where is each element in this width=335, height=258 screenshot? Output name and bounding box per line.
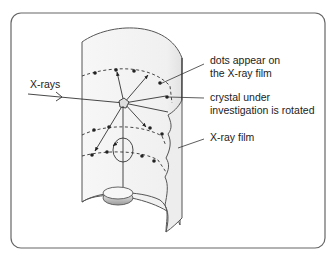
dot [92, 128, 96, 132]
dot [152, 159, 156, 163]
label-x-ray-film: X-ray film [210, 131, 255, 143]
label-dots-line2: the X-ray film [210, 67, 272, 79]
mount-disc-top [103, 187, 133, 199]
dot [140, 154, 144, 158]
label-crystal-line2: investigation is rotated [210, 104, 315, 116]
dot [105, 150, 109, 154]
label-dots-line1: dots appear on [210, 54, 280, 66]
label-crystal-line1: crystal under [210, 91, 271, 103]
dot [114, 68, 118, 72]
dot [160, 132, 164, 136]
label-x-rays: X-rays [30, 78, 60, 90]
dot [90, 153, 94, 157]
dot [148, 126, 152, 130]
diagram-canvas: X-rays dots appear on the X-ray film cry… [0, 0, 335, 258]
dot [132, 69, 136, 73]
dot [93, 71, 97, 75]
